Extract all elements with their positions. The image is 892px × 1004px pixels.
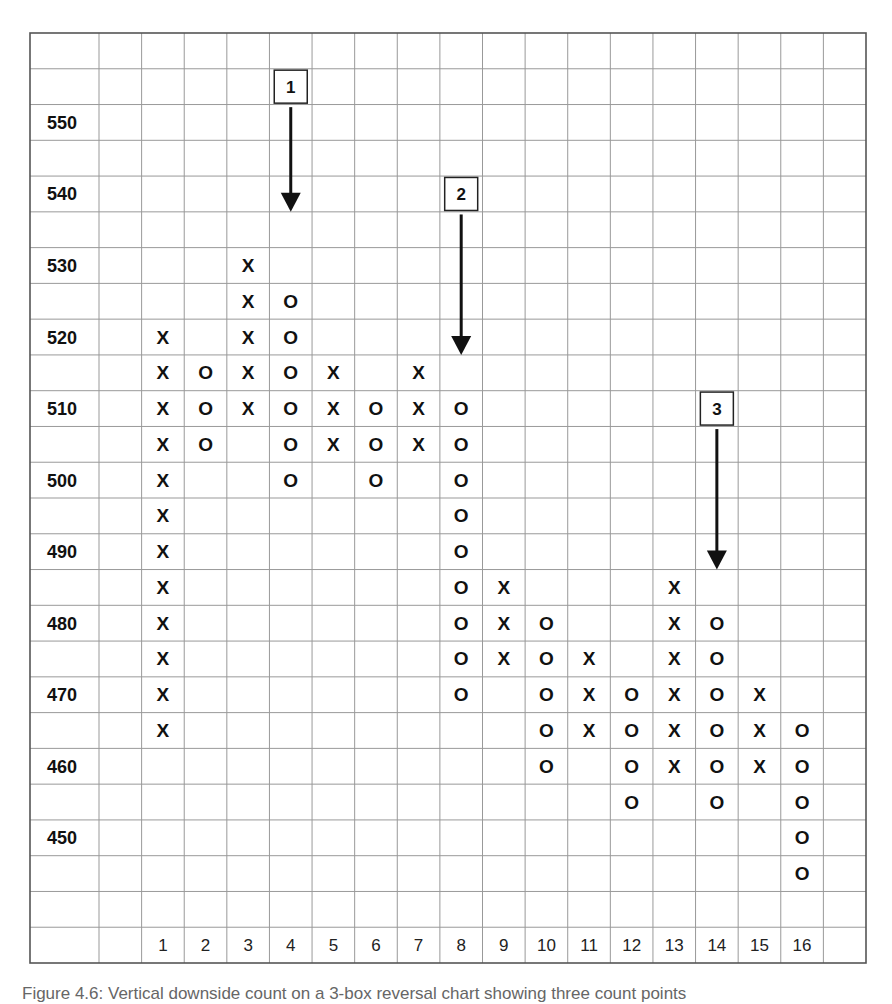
o-box: O [454,577,469,598]
x-box: X [157,505,170,526]
x-box: X [157,577,170,598]
o-box: O [539,684,554,705]
o-box: O [283,398,298,419]
x-tick-label: 7 [414,936,423,955]
o-box: O [624,756,639,777]
x-tick-label: 15 [750,936,769,955]
o-box: O [283,362,298,383]
x-box: X [157,398,170,419]
o-box: O [198,398,213,419]
arrowhead-icon [451,336,471,355]
y-tick-label: 470 [47,685,77,705]
o-box: O [709,720,724,741]
x-box: X [753,756,766,777]
x-tick-label: 16 [793,936,812,955]
arrowhead-icon [281,193,301,212]
x-tick-label: 12 [622,936,641,955]
chart-grid [30,33,866,963]
y-tick-label: 490 [47,542,77,562]
o-box: O [454,541,469,562]
o-box: O [539,756,554,777]
o-box: O [795,756,810,777]
o-box: O [454,648,469,669]
x-box: X [242,398,255,419]
x-box: X [497,577,510,598]
o-box: O [454,613,469,634]
o-box: O [454,398,469,419]
o-box: O [198,434,213,455]
x-box: X [157,684,170,705]
y-tick-label: 540 [47,184,77,204]
o-box: O [369,470,384,491]
y-tick-label: 520 [47,328,77,348]
o-box: O [454,470,469,491]
y-tick-label: 510 [47,399,77,419]
o-box: O [624,792,639,813]
x-box: X [327,434,340,455]
o-box: O [709,684,724,705]
x-box: X [668,684,681,705]
o-box: O [624,684,639,705]
x-tick-label: 10 [537,936,556,955]
arrowhead-icon [707,551,727,570]
o-box: O [283,470,298,491]
y-tick-label: 480 [47,614,77,634]
x-box: X [753,684,766,705]
x-box: X [583,684,596,705]
figure-caption: Figure 4.6: Vertical downside count on a… [22,984,686,1004]
o-box: O [283,291,298,312]
count-marker-3: 3 [700,392,733,569]
x-box: X [327,362,340,383]
x-box: X [668,720,681,741]
x-box: X [412,362,425,383]
y-tick-label: 550 [47,113,77,133]
o-box: O [454,505,469,526]
x-box: X [668,756,681,777]
x-box: X [157,362,170,383]
o-box: O [539,720,554,741]
x-box: X [157,541,170,562]
x-box: X [583,720,596,741]
x-box: X [157,327,170,348]
count-label: 1 [286,78,295,97]
x-tick-label: 2 [201,936,210,955]
x-tick-label: 5 [329,936,338,955]
o-box: O [709,648,724,669]
o-box: O [709,756,724,777]
o-box: O [369,398,384,419]
x-tick-label: 9 [499,936,508,955]
y-tick-label: 500 [47,471,77,491]
x-box: X [327,398,340,419]
x-tick-label: 3 [243,936,252,955]
x-box: X [668,613,681,634]
x-tick-label: 13 [665,936,684,955]
o-box: O [198,362,213,383]
count-annotations: 123 [274,70,733,569]
y-tick-label: 450 [47,828,77,848]
o-box: O [283,434,298,455]
x-tick-label: 6 [371,936,380,955]
x-box: X [583,648,596,669]
count-label: 3 [712,400,721,419]
x-box: X [753,720,766,741]
x-box: X [157,434,170,455]
x-box: X [668,648,681,669]
o-box: O [624,720,639,741]
x-box: X [412,398,425,419]
x-box: X [668,577,681,598]
x-box: X [157,613,170,634]
x-axis-labels: 12345678910111213141516 [158,936,811,955]
o-box: O [454,434,469,455]
o-box: O [795,720,810,741]
x-box: X [412,434,425,455]
count-marker-2: 2 [445,177,478,354]
o-box: O [369,434,384,455]
x-tick-label: 14 [707,936,726,955]
x-box: X [157,720,170,741]
count-marker-1: 1 [274,70,307,212]
o-box: O [709,613,724,634]
x-box: X [497,648,510,669]
count-label: 2 [456,185,465,204]
x-box: X [497,613,510,634]
